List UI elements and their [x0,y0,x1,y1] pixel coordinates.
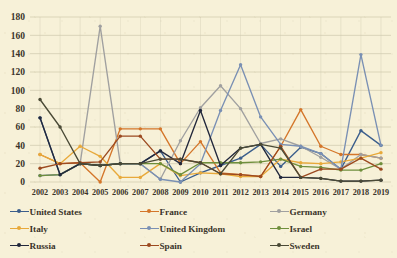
data-point-marker [279,176,282,179]
data-point-marker [299,165,302,168]
data-point-marker [98,155,101,158]
y-axis-tick-label: 20 [16,159,26,169]
data-point-marker [159,157,162,160]
x-axis-tick-label: 2006 [112,188,128,197]
data-point-marker [359,53,362,56]
data-point-marker [359,156,362,159]
data-point-marker [239,161,242,164]
series-france [38,108,382,184]
data-point-marker [339,179,342,182]
data-point-marker [98,180,101,183]
data-point-marker [179,139,182,142]
line-marker-icon [140,207,159,217]
data-point-marker [58,162,61,165]
data-point-marker [179,173,182,176]
legend-item-spain[interactable]: Spain [140,241,258,251]
y-axis-tick-label: 100 [11,86,26,96]
y-axis-tick-label: 160 [11,31,26,41]
legend-item-germany[interactable]: Germany [270,207,388,217]
line-marker-icon [10,241,29,251]
data-point-marker [38,153,41,156]
data-point-marker [219,172,222,175]
chart-plot-area: 0204060801001201401601802002200320042005… [0,0,397,203]
data-point-marker [199,171,202,174]
data-point-marker [38,167,41,170]
data-point-marker [98,24,101,27]
data-point-marker [58,173,61,176]
data-point-marker [139,127,142,130]
data-point-marker [339,153,342,156]
legend-item-sweden[interactable]: Sweden [270,241,388,251]
data-point-marker [38,174,41,177]
y-axis-tick-label: 80 [16,104,26,114]
data-point-marker [139,162,142,165]
data-point-marker [279,157,282,160]
legend-item-france[interactable]: France [140,207,258,217]
data-point-marker [359,168,362,171]
legend-label: Italy [30,224,48,234]
data-point-marker [279,137,282,140]
x-axis-tick-label: 2010 [192,188,208,197]
data-point-marker [379,151,382,154]
data-point-marker [78,145,81,148]
x-axis-tick-label: 2016 [313,188,329,197]
line-marker-icon [140,224,159,234]
x-axis-tick-label: 2014 [273,188,289,197]
data-point-marker [319,177,322,180]
series-sweden [38,98,382,183]
data-point-marker [339,167,342,170]
series-line [40,110,381,182]
line-marker-icon [10,224,29,234]
data-point-marker [359,179,362,182]
y-axis-tick-label: 120 [11,67,26,77]
x-axis-tick-label: 2018 [353,188,369,197]
data-point-marker [379,162,382,165]
x-axis-tick-label: 2012 [232,188,248,197]
x-axis-tick-label: 2015 [293,188,309,197]
legend-label: Sweden [290,241,320,251]
data-point-marker [119,162,122,165]
x-axis-tick-label: 2007 [132,188,148,197]
data-point-marker [139,134,142,137]
data-point-marker [239,156,242,159]
data-point-marker [119,134,122,137]
legend-item-united-states[interactable]: United States [10,207,128,217]
data-point-marker [179,157,182,160]
legend-label: United Kingdom [160,224,226,234]
x-axis-tick-label: 2019 [373,188,389,197]
data-point-marker [359,129,362,132]
data-point-marker [98,164,101,167]
line-marker-icon [270,207,289,217]
legend-label: Russia [30,241,56,251]
x-axis-tick-label: 2004 [72,188,88,197]
data-point-marker [38,116,41,119]
data-point-marker [179,162,182,165]
data-point-marker [219,84,222,87]
legend-item-italy[interactable]: Italy [10,224,128,234]
legend-item-israel[interactable]: Israel [270,224,388,234]
data-point-marker [139,176,142,179]
data-point-marker [319,156,322,159]
legend-label: Spain [160,241,182,251]
data-point-marker [239,63,242,66]
legend-item-russia[interactable]: Russia [10,241,128,251]
y-axis-tick-label: 180 [11,12,26,22]
legend-row: Russia Spain Sweden [0,237,397,254]
legend-label: United States [30,207,82,217]
data-point-marker [299,161,302,164]
data-point-marker [359,153,362,156]
data-point-marker [239,146,242,149]
data-point-marker [78,162,81,165]
y-axis-tick-label: 140 [11,49,26,59]
line-chart: 0204060801001201401601802002200320042005… [0,0,397,258]
chart-legend: United States France Germany Italy Unite… [0,203,397,258]
data-point-marker [159,178,162,181]
legend-label: Germany [290,207,327,217]
series-israel [38,157,382,177]
data-point-marker [119,127,122,130]
legend-item-united-kingdom[interactable]: United Kingdom [140,224,258,234]
data-point-marker [159,149,162,152]
x-axis-tick-label: 2013 [252,188,268,197]
data-point-marker [299,176,302,179]
data-point-marker [259,143,262,146]
